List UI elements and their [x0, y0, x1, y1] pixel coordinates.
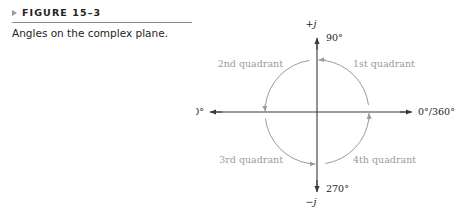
triangle-right-icon	[12, 10, 17, 16]
complex-plane-svg: +j 90° 180° 0°/360° 270° −j 1st quadrant…	[196, 0, 457, 216]
figure-number-line: FIGURE 15–3	[12, 6, 192, 19]
negative-imaginary-label: −j	[306, 196, 317, 207]
quadrant-3-label: 3rd quadrant	[219, 154, 283, 165]
quadrant-2-label: 2nd quadrant	[218, 58, 284, 69]
figure-number-label: FIGURE 15–3	[22, 7, 101, 18]
angle-label-270: 270°	[326, 183, 349, 194]
angle-label-180: 180°	[196, 106, 204, 117]
angle-label-90: 90°	[326, 32, 343, 43]
arc-arrowhead-bottom	[308, 163, 316, 164]
figure-caption-block: FIGURE 15–3 Angles on the complex plane.	[12, 6, 192, 19]
figure-caption-text: Angles on the complex plane.	[12, 27, 207, 40]
quadrant-1-label: 1st quadrant	[353, 58, 415, 69]
quadrant-4-label: 4th quadrant	[353, 154, 416, 165]
positive-imaginary-label: +j	[306, 18, 317, 29]
complex-plane-diagram: +j 90° 180° 0°/360° 270° −j 1st quadrant…	[196, 0, 457, 216]
figure-page: FIGURE 15–3 Angles on the complex plane.	[0, 0, 457, 216]
angle-label-0-360: 0°/360°	[418, 106, 455, 117]
caption-divider-rule	[12, 22, 192, 23]
